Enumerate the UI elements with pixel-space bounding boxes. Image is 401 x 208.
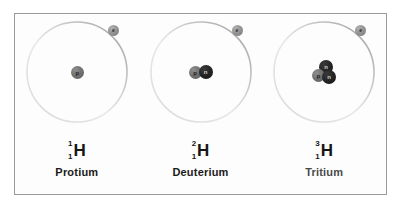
isotope-notation-protium: 1 1 H [15,132,139,161]
isotope-notation-deuterium: 2 1 H [139,132,263,161]
electron-particle: e [108,25,119,36]
element-symbol: H [321,142,333,159]
isotope-cell-tritium: n p n e 3 1 H Tritium [262,14,386,194]
atomic-number: 1 [315,153,319,161]
isotope-name-deuterium: Deuterium [139,166,263,178]
isotope-notation-tritium: 3 1 H [262,132,386,161]
neutron-particle: n [199,65,213,79]
atom-diagram-deuterium: p n e [149,20,253,124]
atom-diagram-protium: p e [25,20,129,124]
isotope-name-tritium: Tritium [262,166,386,178]
mass-number: 1 [68,140,72,148]
atomic-number: 1 [192,153,196,161]
isotopes-row: p e 1 1 H Protium [15,14,386,194]
electron-particle: e [355,25,366,36]
isotope-cell-deuterium: p n e 2 1 H Deuterium [139,14,263,194]
atomic-number: 1 [68,153,72,161]
isotope-name-protium: Protium [15,166,139,178]
mass-number: 2 [192,140,196,148]
atom-diagram-tritium: n p n e [272,20,376,124]
neutron-particle: n [322,70,336,84]
isotope-cell-protium: p e 1 1 H Protium [15,14,139,194]
isotopes-figure-panel: p e 1 1 H Protium [14,13,387,195]
electron-particle: e [232,25,243,36]
mass-number: 3 [315,140,319,148]
element-symbol: H [73,142,85,159]
element-symbol: H [197,142,209,159]
proton-particle: p [71,66,84,79]
